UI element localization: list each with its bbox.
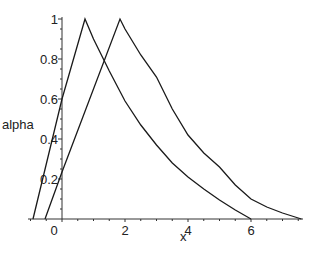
- series-line-2: [45, 19, 301, 219]
- alpha-vs-x-chart: 02460.20.40.60.81 alpha x: [0, 0, 331, 259]
- y-tick-label: 0.6: [40, 92, 58, 107]
- y-tick-label: 0.8: [40, 52, 58, 67]
- x-tick-label: 6: [247, 223, 254, 238]
- axes: [28, 17, 303, 219]
- x-tick-label: 2: [121, 223, 128, 238]
- data-series: [33, 19, 301, 219]
- y-axis-title: alpha: [2, 117, 35, 132]
- x-axis-title: x: [180, 229, 187, 244]
- series-line-1: [33, 19, 251, 219]
- axis-ticks: 02460.20.40.60.81: [31, 12, 299, 238]
- y-tick-label: 1: [51, 12, 58, 27]
- y-tick-label: 0.4: [40, 132, 58, 147]
- x-tick-label: 0: [50, 223, 57, 238]
